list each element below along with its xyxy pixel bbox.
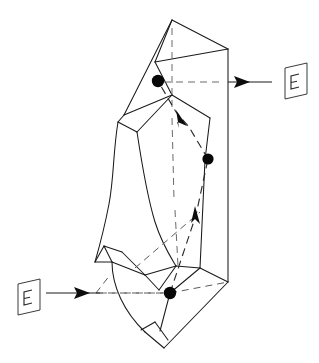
marker-point-middle (202, 153, 213, 164)
plane-symbol-bottom-left-group: E (0, 0, 100, 315)
crystal-diagram-figure: E E (0, 0, 319, 363)
marker-point-bottom (164, 287, 176, 299)
crystal-solid (95, 20, 228, 348)
marker-point-top (152, 75, 164, 87)
crystal-diagram-canvas: E E (0, 0, 319, 363)
